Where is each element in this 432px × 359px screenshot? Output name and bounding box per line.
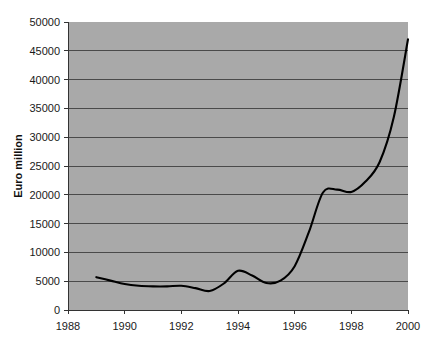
- x-tick-label: 1994: [226, 320, 250, 332]
- x-tick-label: 1988: [56, 320, 80, 332]
- line-chart: 0500010000150002000025000300003500040000…: [0, 0, 432, 359]
- y-tick-label: 50000: [29, 16, 60, 28]
- x-tick-label: 1990: [112, 320, 136, 332]
- y-tick-label: 35000: [29, 102, 60, 114]
- chart-container: 0500010000150002000025000300003500040000…: [0, 0, 432, 359]
- x-tick-label: 2000: [396, 320, 420, 332]
- y-tick-label: 20000: [29, 189, 60, 201]
- y-tick-label: 45000: [29, 45, 60, 57]
- x-tick-label: 1998: [339, 320, 363, 332]
- y-tick-label: 25000: [29, 160, 60, 172]
- y-axis-title: Euro million: [12, 134, 24, 198]
- y-tick-label: 15000: [29, 218, 60, 230]
- y-tick-label: 10000: [29, 246, 60, 258]
- y-tick-label: 5000: [36, 275, 60, 287]
- y-tick-label: 0: [54, 304, 60, 316]
- y-tick-label: 30000: [29, 131, 60, 143]
- x-tick-label: 1992: [169, 320, 193, 332]
- y-tick-label: 40000: [29, 74, 60, 86]
- x-tick-label: 1996: [282, 320, 306, 332]
